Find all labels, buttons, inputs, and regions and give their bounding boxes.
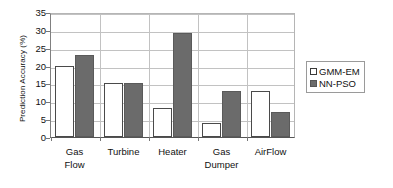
bar-group bbox=[149, 14, 198, 137]
x-tick-mark bbox=[149, 137, 150, 141]
legend-swatch-icon bbox=[310, 80, 317, 87]
x-tick-label: Turbine bbox=[99, 145, 148, 158]
bar-group bbox=[100, 14, 149, 137]
bar[interactable] bbox=[251, 91, 270, 137]
legend-entry[interactable]: NN-PSO bbox=[310, 77, 360, 89]
x-tick-label: Gas Dumper bbox=[197, 145, 246, 171]
legend-label: NN-PSO bbox=[319, 78, 356, 89]
y-tick-label: 10 bbox=[20, 97, 46, 107]
x-tick-mark bbox=[247, 137, 248, 141]
y-tick-label: 20 bbox=[20, 62, 46, 72]
x-tick-label: Gas Flow bbox=[50, 145, 99, 171]
bars-layer bbox=[51, 14, 294, 137]
y-tick-label: 5 bbox=[20, 115, 46, 125]
bar-group bbox=[247, 14, 296, 137]
y-tick-label: 0 bbox=[20, 133, 46, 143]
y-tick-label: 35 bbox=[20, 8, 46, 18]
bar[interactable] bbox=[271, 112, 290, 137]
bar-group bbox=[51, 14, 100, 137]
bar[interactable] bbox=[173, 33, 192, 137]
bar[interactable] bbox=[75, 55, 94, 137]
y-tick-mark bbox=[46, 138, 50, 139]
x-tick-label: Heater bbox=[148, 145, 197, 158]
legend-swatch-icon bbox=[310, 68, 317, 75]
y-tick-label: 25 bbox=[20, 44, 46, 54]
y-tick-label: 15 bbox=[20, 79, 46, 89]
bar[interactable] bbox=[222, 91, 241, 137]
bar[interactable] bbox=[104, 83, 123, 137]
bar-chart-figure: Prediction Accuracy (%) 05101520253035 G… bbox=[0, 0, 393, 188]
x-tick-mark bbox=[198, 137, 199, 141]
x-tick-mark bbox=[51, 137, 52, 141]
bar-group bbox=[198, 14, 247, 137]
bar[interactable] bbox=[153, 108, 172, 137]
x-axis-tick-labels: Gas FlowTurbineHeaterGas DumperAirFlow bbox=[50, 145, 295, 187]
x-tick-label: AirFlow bbox=[246, 145, 295, 158]
bar[interactable] bbox=[124, 83, 143, 137]
plot-area bbox=[50, 13, 295, 138]
legend-entry[interactable]: GMM-EM bbox=[310, 65, 360, 77]
bar[interactable] bbox=[55, 66, 74, 137]
bar[interactable] bbox=[202, 123, 221, 137]
legend-label: GMM-EM bbox=[319, 66, 360, 77]
x-tick-mark bbox=[100, 137, 101, 141]
chart-legend: GMM-EMNN-PSO bbox=[306, 61, 365, 93]
y-axis-tick-labels: 05101520253035 bbox=[20, 8, 46, 140]
y-tick-label: 30 bbox=[20, 26, 46, 36]
